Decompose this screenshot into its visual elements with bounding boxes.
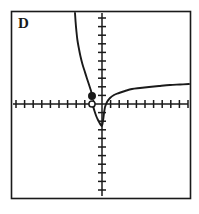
open-endpoint-marker bbox=[89, 101, 95, 107]
plot-canvas bbox=[0, 0, 199, 214]
closed-endpoint-marker bbox=[89, 93, 96, 100]
graph-figure: D bbox=[0, 0, 199, 214]
panel-label: D bbox=[18, 16, 29, 31]
plot-frame bbox=[12, 12, 191, 199]
